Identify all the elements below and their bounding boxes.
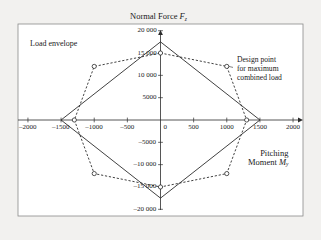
y-tick-label: –15 000: [134, 183, 157, 190]
envelope-vertex-marker: [92, 64, 96, 68]
envelope-vertex-marker: [225, 171, 229, 175]
x-axis-title: Pitching Moment My: [248, 149, 288, 167]
y-tick-label: 5000: [143, 94, 157, 101]
load-envelope-chart: Normal Force Fz Pitching Moment My Load …: [0, 0, 321, 240]
figure-container: Normal Force Fz Pitching Moment My Load …: [0, 0, 321, 240]
chart-title-subscript: z: [185, 16, 187, 22]
x-tick-label: 0: [164, 124, 168, 131]
x-axis-title-line2-text: Moment: [248, 157, 279, 167]
envelope-vertex-marker: [225, 64, 229, 68]
chart-title-text: Normal Force: [130, 11, 180, 21]
envelope-vertex-marker: [158, 185, 162, 189]
x-axis-title-line2: Moment My: [248, 158, 288, 167]
envelope-vertex-marker: [92, 171, 96, 175]
y-tick-label: –5000: [139, 139, 157, 146]
x-tick-label: –500: [120, 124, 134, 131]
x-tick-label: 500: [188, 124, 199, 131]
x-tick-label: –1000: [85, 124, 103, 131]
chart-canvas: [0, 0, 321, 240]
x-tick-label: 1000: [220, 124, 234, 131]
y-tick-label: 20 000: [138, 27, 157, 34]
x-tick-label: 2000: [286, 124, 300, 131]
annotation-design-point: Design point for maximum combined load: [237, 56, 282, 83]
envelope-vertex-marker: [72, 118, 76, 122]
chart-title-symbol: F: [180, 11, 185, 21]
x-axis-title-symbol: M: [279, 157, 286, 167]
x-axis-title-subscript: y: [286, 161, 288, 167]
x-tick-label: –1500: [52, 124, 70, 131]
y-tick-label: 10 000: [138, 72, 157, 79]
y-tick-label: –20 000: [134, 206, 157, 213]
envelope-vertex-marker: [158, 51, 162, 55]
y-tick-label: –10 000: [134, 161, 157, 168]
y-tick-label: 15 000: [138, 50, 157, 57]
chart-title: Normal Force Fz: [130, 12, 187, 21]
x-tick-label: –2000: [19, 124, 37, 131]
envelope-vertex-marker: [245, 118, 249, 122]
annotation-design-point-line3: combined load: [237, 74, 282, 83]
x-tick-label: 1500: [253, 124, 267, 131]
annotation-load-envelope: Load envelope: [30, 40, 77, 48]
